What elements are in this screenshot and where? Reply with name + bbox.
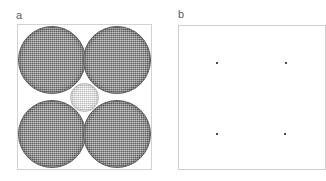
circle-center-interstitial: [70, 83, 99, 112]
panel-a-label: a: [16, 10, 22, 21]
circle-bottom-left: [18, 100, 86, 168]
circle-bottom-right: [83, 100, 151, 168]
panel-b-plot: [178, 25, 326, 170]
point-bottom-right: [284, 133, 286, 135]
panel-b-label: b: [178, 9, 184, 20]
point-top-right: [285, 62, 287, 64]
circle-top-right: [83, 26, 151, 94]
point-bottom-left: [216, 133, 218, 135]
circle-top-left: [18, 26, 86, 94]
point-top-left: [216, 62, 218, 64]
panel-a-plot: [17, 24, 152, 170]
